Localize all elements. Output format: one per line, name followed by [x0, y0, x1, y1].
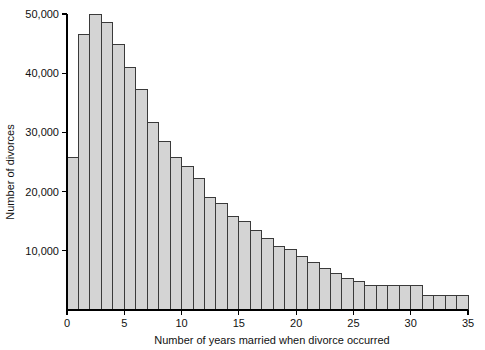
- histogram-bar: [445, 296, 456, 310]
- x-tick-label: 25: [347, 317, 359, 329]
- histogram-bar: [365, 286, 376, 310]
- histogram-bar: [250, 231, 261, 310]
- histogram-bar: [159, 141, 170, 310]
- x-tick-label: 20: [290, 317, 302, 329]
- y-axis-title: Number of divorces: [4, 124, 16, 220]
- y-tick-label: 20,000: [25, 186, 59, 198]
- histogram-bar: [193, 179, 204, 310]
- histogram-bar: [342, 278, 353, 310]
- histogram-bar: [411, 286, 422, 310]
- histogram-bar: [434, 296, 445, 310]
- histogram-bar: [147, 122, 158, 310]
- histogram-bar: [399, 286, 410, 310]
- histogram-bar: [90, 14, 101, 310]
- y-tick-label: 50,000: [25, 8, 59, 20]
- histogram-bar: [101, 22, 112, 310]
- histogram-bar: [422, 296, 433, 310]
- chart-canvas: 10,00020,00030,00040,00050,000 051015202…: [0, 0, 485, 350]
- y-tick-label: 40,000: [25, 67, 59, 79]
- histogram-bar: [78, 35, 89, 310]
- histogram-bar: [170, 158, 181, 310]
- histogram-bar: [285, 250, 296, 310]
- y-tick-label: 10,000: [25, 245, 59, 257]
- histogram-bar: [262, 239, 273, 310]
- histogram-bar: [457, 296, 468, 310]
- histogram-bar: [273, 246, 284, 310]
- x-tick-label: 30: [405, 317, 417, 329]
- histogram-bar: [113, 45, 124, 310]
- histogram-bar: [308, 263, 319, 310]
- x-axis-title: Number of years married when divorce occ…: [154, 334, 389, 346]
- bars-group: [67, 14, 468, 310]
- histogram-bar: [353, 282, 364, 310]
- histogram-bar: [182, 167, 193, 310]
- histogram-bar: [136, 90, 147, 310]
- histogram-bar: [331, 273, 342, 310]
- histogram-bar: [216, 203, 227, 310]
- x-tick-label: 5: [121, 317, 127, 329]
- x-axis-ticks: 05101520253035: [64, 310, 474, 329]
- x-tick-label: 15: [233, 317, 245, 329]
- x-tick-label: 10: [175, 317, 187, 329]
- y-axis-ticks: 10,00020,00030,00040,00050,000: [25, 8, 67, 257]
- histogram-bar: [296, 257, 307, 310]
- histogram-bar: [239, 222, 250, 310]
- x-tick-label: 35: [462, 317, 474, 329]
- histogram-bar: [67, 157, 78, 310]
- histogram-bar: [227, 216, 238, 310]
- histogram-chart: 10,00020,00030,00040,00050,000 051015202…: [0, 0, 485, 350]
- histogram-bar: [204, 198, 215, 310]
- x-tick-label: 0: [64, 317, 70, 329]
- histogram-bar: [319, 269, 330, 310]
- histogram-bar: [124, 67, 135, 310]
- histogram-bar: [376, 286, 387, 310]
- histogram-bar: [388, 286, 399, 310]
- y-tick-label: 30,000: [25, 126, 59, 138]
